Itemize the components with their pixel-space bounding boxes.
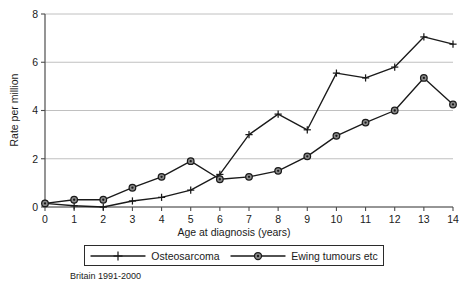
- legend-item-osteosarcoma: Osteosarcoma: [90, 250, 219, 262]
- data-point-marker-center: [219, 178, 221, 180]
- data-point-marker-center: [394, 109, 396, 111]
- x-tick-label: 9: [304, 213, 310, 225]
- x-axis-title: Age at diagnosis (years): [0, 226, 468, 238]
- data-point-marker-center: [423, 77, 425, 79]
- y-tick-label: 4: [32, 104, 38, 116]
- data-point-marker-center: [44, 202, 46, 204]
- chart-caption: Britain 1991-2000: [70, 271, 141, 281]
- x-tick-label: 11: [360, 213, 371, 225]
- series-osteosarcoma: [41, 33, 456, 210]
- x-tick-labels: 01234567891011121314: [42, 213, 459, 225]
- x-tick-label: 12: [389, 213, 401, 225]
- x-tick-label: 0: [42, 213, 48, 225]
- data-point-marker-center: [248, 176, 250, 178]
- data-point-marker-center: [190, 160, 192, 162]
- x-tick-label: 3: [130, 213, 136, 225]
- y-tick-label: 6: [32, 56, 38, 68]
- legend-label-osteosarcoma: Osteosarcoma: [151, 250, 219, 262]
- data-point-marker-center: [102, 199, 104, 201]
- x-tick-label: 6: [217, 213, 223, 225]
- series-ewing-tumours-etc: [42, 75, 457, 207]
- series-path: [45, 78, 453, 203]
- x-tick-label: 5: [188, 213, 194, 225]
- x-tick-label: 10: [331, 213, 343, 225]
- chart-figure: 02468 01234567891011121314 Age at diagno…: [0, 0, 468, 288]
- y-tick-label: 2: [32, 153, 38, 165]
- line-chart-canvas: 02468 01234567891011121314: [0, 0, 468, 232]
- data-point-marker-center: [335, 135, 337, 137]
- data-point-marker-center: [277, 170, 279, 172]
- data-series-group: [41, 33, 456, 210]
- legend-item-ewing: Ewing tumours etc: [230, 250, 377, 262]
- data-point-marker-center: [452, 103, 454, 105]
- y-tick-label: 0: [32, 201, 38, 213]
- x-tick-label: 7: [246, 213, 252, 225]
- plot-area: 02468 01234567891011121314: [0, 0, 468, 232]
- data-point-marker-center: [131, 187, 133, 189]
- legend-swatch-plus-icon: [90, 250, 146, 262]
- x-tick-label: 8: [275, 213, 281, 225]
- y-axis-title: Rate per million: [8, 50, 20, 170]
- x-tick-label: 1: [71, 213, 77, 225]
- legend-swatch-circle-icon: [230, 250, 286, 262]
- y-tick-label: 8: [32, 8, 38, 20]
- data-point-marker-center: [364, 121, 366, 123]
- legend-label-ewing: Ewing tumours etc: [291, 250, 377, 262]
- x-tick-label: 13: [418, 213, 430, 225]
- data-point-marker-center: [160, 176, 162, 178]
- x-tick-label: 4: [159, 213, 165, 225]
- x-tick-label: 2: [100, 213, 106, 225]
- y-tick-labels: 02468: [32, 8, 38, 213]
- x-tick-label: 14: [447, 213, 459, 225]
- data-point-marker-center: [306, 155, 308, 157]
- data-point-marker-center: [73, 199, 75, 201]
- chart-legend: Osteosarcoma Ewing tumours etc: [84, 245, 384, 266]
